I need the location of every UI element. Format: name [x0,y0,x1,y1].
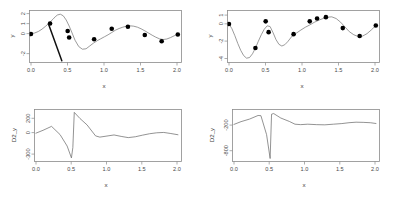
x-axis-title: x [102,82,106,89]
data-point [159,39,164,44]
ytick-label: 200 [25,114,31,123]
ytick-label: 0 [218,22,224,25]
ytick-label: -4 [218,56,224,61]
curve-line [31,14,178,49]
x-axis-title: x [104,181,108,188]
y-axis-ticks-bl: 200 0 -300 [25,114,34,160]
x-axis-ticks-tr: 0.0 0.5 1.0 1.5 2.0 [225,63,379,74]
xtick-label: 1.5 [336,166,344,172]
data-point [109,27,114,32]
data-point [266,30,271,35]
xtick-label: 0.0 [27,67,35,73]
ytick-label: -200 [223,119,229,130]
data-point [176,32,181,37]
xtick-label: 0.0 [225,67,233,73]
x-axis-title: x [302,181,306,188]
ytick-label: 0 [20,32,26,35]
ytick-label: -2 [20,51,26,56]
x-axis-ticks-tl: 0.0 0.5 1.0 1.5 2.0 [27,63,181,74]
ytick-label: -2 [218,39,224,44]
series-layer-br [234,114,376,159]
xtick-label: 2.0 [371,166,379,172]
data-point [324,15,329,20]
y-axis-title: y [206,34,213,38]
data-point [142,33,147,38]
data-point [374,23,379,28]
ytick-label: 0 [25,131,31,134]
xtick-label: 1.0 [100,67,108,73]
data-point [65,29,70,34]
xtick-label: 2.0 [371,67,379,73]
panel-bottom-left: 200 0 -300 0.0 0.5 1.0 1.5 2.0 D2_y x [0,99,198,198]
y-axis-title: y [8,34,15,38]
y-axis-ticks-tl: 2 1 0 -2 [20,12,29,56]
plot-frame-tr [228,11,380,63]
data-point [340,26,345,31]
curve-line [234,114,376,159]
xtick-label: 0.0 [32,166,40,172]
xtick-label: 2.0 [173,166,181,172]
y-axis-ticks-tr: 1 0 -2 -4 [218,14,227,61]
ytick-label: -300 [25,148,31,159]
xtick-label: 1.5 [335,67,343,73]
data-point [67,35,72,40]
artifact-spike-line [49,24,62,61]
x-axis-ticks-bl: 0.0 0.5 1.0 1.5 2.0 [32,162,181,173]
y-axis-title: D2_y [208,127,215,142]
series-layer-tl [29,14,180,61]
xtick-label: 1.0 [301,166,309,172]
xtick-label: 0.5 [64,67,72,73]
data-point [307,19,312,24]
ytick-label: 1 [218,14,224,17]
xtick-label: 0.5 [265,166,273,172]
curve-line [36,112,178,158]
xtick-label: 2.0 [173,67,181,73]
y-axis-ticks-br: -200 -800 [223,119,232,156]
data-point [263,19,268,24]
xtick-label: 0.0 [230,166,238,172]
x-axis-title: x [300,82,304,89]
ytick-label: 1 [20,22,26,25]
xtick-label: 1.5 [138,166,146,172]
series-layer-bl [36,112,178,158]
xtick-label: 0.5 [67,166,75,172]
xtick-label: 1.0 [103,166,111,172]
xtick-label: 1.0 [298,67,306,73]
panel-bottom-right: -200 -800 0.0 0.5 1.0 1.5 2.0 D2_y x [198,99,396,198]
data-point [357,34,362,39]
panel-top-left-svg: 2 1 0 -2 0.0 0.5 1.0 1.5 2.0 y x [0,0,198,99]
figure-grid: 2 1 0 -2 0.0 0.5 1.0 1.5 2.0 y x [0,0,396,198]
panel-top-right: 1 0 -2 -4 0.0 0.5 1.0 1.5 2.0 y x [198,0,396,99]
data-point [291,32,296,37]
ytick-label: -800 [223,145,229,156]
ytick-label: 2 [20,12,26,15]
data-point [315,16,320,21]
xtick-label: 0.5 [262,67,270,73]
panel-bottom-right-svg: -200 -800 0.0 0.5 1.0 1.5 2.0 D2_y x [198,99,396,198]
series-layer-tr [227,15,378,58]
data-point [92,37,97,42]
y-axis-title: D2_y [10,127,17,142]
xtick-label: 1.5 [137,67,145,73]
data-point [253,46,258,51]
panel-bottom-left-svg: 200 0 -300 0.0 0.5 1.0 1.5 2.0 D2_y x [0,99,198,198]
x-axis-ticks-br: 0.0 0.5 1.0 1.5 2.0 [230,162,379,173]
data-point [126,25,131,30]
curve-line [229,17,376,58]
panel-top-left: 2 1 0 -2 0.0 0.5 1.0 1.5 2.0 y x [0,0,198,99]
panel-top-right-svg: 1 0 -2 -4 0.0 0.5 1.0 1.5 2.0 y x [198,0,396,99]
